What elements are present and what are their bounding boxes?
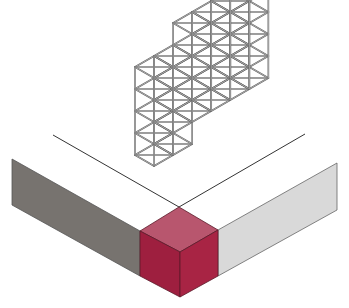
left-bar-face: [12, 159, 140, 276]
isometric-diagram: [0, 0, 349, 308]
corner-cube: [140, 207, 218, 297]
right-bar-face: [218, 163, 337, 276]
cube-lattice: [135, 0, 268, 166]
